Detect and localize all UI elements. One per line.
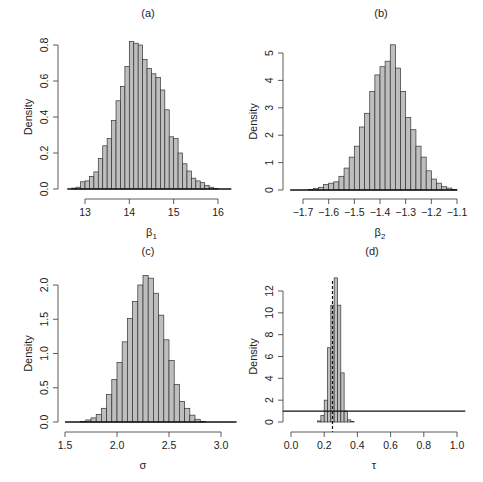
histogram-bar <box>169 137 173 189</box>
histogram-bar <box>169 360 174 422</box>
histogram-bar <box>138 45 142 189</box>
histogram-bar <box>134 43 138 189</box>
y-tick-label: 0.5 <box>38 380 50 395</box>
histogram-bar <box>120 86 124 189</box>
histogram-bar <box>416 146 421 190</box>
histogram-bar <box>411 130 416 190</box>
y-tick-label: 0.4 <box>38 110 50 125</box>
x-axis: 1.52.02.53.0σ <box>58 432 229 471</box>
histogram-bar <box>347 420 350 422</box>
histogram-bar <box>344 168 349 190</box>
histogram-bar <box>101 408 106 422</box>
y-axis-label: Density <box>22 335 34 372</box>
y-tick-label: 1.0 <box>38 346 50 361</box>
histogram-bar <box>334 182 339 190</box>
histogram-bar <box>117 362 122 422</box>
panel-title: (d) <box>365 245 378 257</box>
y-tick-label: 0 <box>263 187 275 193</box>
x-axis: −1.7−1.6−1.5−1.4−1.3−1.2−1.1β2 <box>293 199 468 241</box>
y-tick-label: 2 <box>263 397 275 403</box>
y-tick-label: 0 <box>263 419 275 425</box>
histogram-bar <box>341 373 344 422</box>
histogram-bar <box>133 301 138 422</box>
x-tick-label: 14 <box>123 206 135 218</box>
x-axis-label: σ <box>140 459 147 471</box>
histogram-bar <box>153 293 158 422</box>
histogram-bar <box>129 41 133 189</box>
histogram-bar <box>337 305 340 422</box>
histogram-bars <box>81 275 206 422</box>
histogram-bar <box>370 91 375 190</box>
x-tick-label: 2.5 <box>162 439 177 451</box>
panel-b: (b)012345Density−1.7−1.6−1.5−1.4−1.3−1.2… <box>247 7 468 241</box>
y-axis: 024681012Density <box>247 285 283 425</box>
histogram-bar <box>159 315 164 422</box>
y-tick-label: 12 <box>263 285 275 297</box>
x-tick-label: 0.0 <box>284 439 299 451</box>
y-tick-label: 6 <box>263 353 275 359</box>
histogram-bar <box>436 183 441 190</box>
histogram-bar <box>395 68 400 190</box>
x-axis-label: β1 <box>146 226 157 241</box>
histogram-bar <box>324 185 329 190</box>
histogram-bar <box>421 157 426 190</box>
histogram-bar <box>349 157 354 190</box>
x-axis-label: β2 <box>375 226 386 241</box>
histogram-bar <box>401 91 406 190</box>
x-tick-label: −1.5 <box>344 206 365 218</box>
x-tick-label: 0.8 <box>416 439 431 451</box>
histogram-bar <box>147 68 151 189</box>
y-tick-label: 0.6 <box>38 74 50 89</box>
histogram-bar <box>165 110 169 189</box>
histogram-bar <box>122 342 127 422</box>
y-tick-label: 1.5 <box>38 312 50 327</box>
x-tick-label: 16 <box>212 206 224 218</box>
histogram-bar <box>143 59 147 189</box>
histogram-bar <box>375 75 380 190</box>
x-tick-label: 2.0 <box>110 439 125 451</box>
histogram-bar <box>365 113 370 190</box>
x-tick-label: 15 <box>168 206 180 218</box>
histogram-bar <box>160 90 164 189</box>
histogram-bars <box>72 41 218 189</box>
y-tick-label: 1 <box>263 160 275 166</box>
histogram-bar <box>164 340 169 422</box>
panel-title: (c) <box>142 245 155 257</box>
x-tick-label: −1.6 <box>318 206 339 218</box>
y-axis: 0.00.20.40.60.8Density <box>22 38 58 197</box>
histogram-bar <box>344 411 347 422</box>
panel-a: (a)0.00.20.40.60.8Density13141516β1 <box>22 7 231 241</box>
histogram-bar <box>112 380 117 422</box>
panel-d: (d)024681012Density0.00.20.40.60.81.0τ <box>247 245 465 471</box>
x-tick-label: 3.0 <box>214 439 229 451</box>
histogram-bar <box>329 183 334 190</box>
x-tick-label: 0.2 <box>317 439 332 451</box>
histogram-bar <box>406 117 411 190</box>
y-axis: 012345Density <box>247 50 283 193</box>
histogram-bar <box>81 182 85 189</box>
y-tick-label: 4 <box>263 375 275 381</box>
x-tick-label: −1.1 <box>447 206 468 218</box>
histogram-bar <box>200 183 204 189</box>
y-axis-label: Density <box>22 98 34 135</box>
histogram-bar <box>385 61 390 190</box>
histogram-bar <box>174 139 178 189</box>
histogram-bar <box>127 319 132 422</box>
x-tick-label: 13 <box>79 206 91 218</box>
histogram-bar <box>359 127 364 190</box>
y-axis-label: Density <box>247 103 259 140</box>
histogram-bars <box>318 278 355 422</box>
y-axis-label: Density <box>247 338 259 375</box>
histogram-bar <box>178 153 182 189</box>
histogram-bar <box>98 158 102 189</box>
histogram-bar <box>112 121 116 189</box>
histogram-bar <box>191 178 195 189</box>
histogram-bar <box>125 67 129 189</box>
x-axis: 0.00.20.40.60.81.0τ <box>284 432 465 471</box>
histogram-bar <box>179 401 184 422</box>
histogram-bar <box>380 67 385 190</box>
histogram-bar <box>431 179 436 190</box>
histogram-bar <box>185 408 190 422</box>
panel-title: (b) <box>374 7 387 19</box>
histogram-bar <box>94 172 98 189</box>
